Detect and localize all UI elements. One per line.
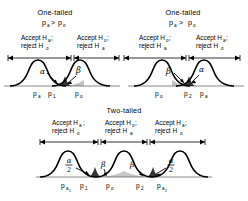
region-line1: Accept H	[77, 34, 103, 42]
region-range-bars	[124, 55, 240, 61]
region-line1-tail: ;	[51, 34, 53, 41]
axis-label-sub2: 2	[165, 189, 167, 193]
region-line1-tail: ;	[83, 119, 85, 126]
region-line2-sub: a	[102, 46, 105, 51]
region-label-accept-ho-reject-ha: Accept H o ; reject H a	[77, 34, 109, 51]
axis-label-base: p	[80, 182, 84, 190]
beta-symbol: β	[75, 65, 81, 75]
axis-tick-labels: p a 1 p 1 p o p 2 p a 2	[61, 182, 167, 193]
hypothesis-lhs-sub: a	[174, 23, 177, 28]
axis-label-base: p	[75, 90, 79, 98]
axis-label-base: p	[200, 90, 204, 98]
region-line2: reject H	[155, 127, 177, 135]
axis-label-base: p	[157, 182, 161, 190]
region-label-accept-ha-reject-ho-upper: Accept H a ; reject H o	[155, 119, 187, 136]
alpha-over-two-annotation-left: α 2	[66, 157, 90, 175]
axis-label-base: p	[61, 182, 65, 190]
region-line2: reject H	[21, 42, 43, 50]
axis-label-base: p	[33, 90, 37, 98]
axis-label-base: p	[106, 182, 110, 190]
axis-label-base: p	[48, 90, 52, 98]
curve-null-distribution	[134, 60, 190, 86]
beta-annotation: β	[165, 66, 185, 84]
region-line1: Accept H	[196, 34, 222, 42]
region-line1-sub: a	[79, 123, 82, 128]
axis-label-sub: o	[80, 94, 83, 99]
alpha-over-two-annotation-right: α 2	[155, 157, 175, 176]
axis-tick-labels: p a p 1 p o	[33, 90, 83, 99]
region-line2: reject H	[105, 127, 127, 135]
axis-label-sub: o	[111, 186, 114, 191]
region-line1-tail: ;	[107, 34, 109, 41]
figure-canvas: One-tailed p a > p o Accept H a ; reject…	[0, 0, 248, 201]
hypothesis-lhs: p	[169, 18, 173, 27]
region-line2-sub: o	[221, 46, 224, 51]
region-label-accept-ha-reject-ho: Accept H a ; reject H o	[196, 34, 228, 51]
axis-label-sub: a	[38, 94, 41, 99]
region-line1: Accept H	[155, 119, 181, 127]
region-line2-sub: o	[180, 131, 183, 136]
region-line1-tail: ;	[169, 34, 171, 41]
alpha-denominator: 2	[66, 166, 71, 174]
axis-label-sub: 2	[141, 186, 144, 191]
region-line2-sub: a	[164, 46, 167, 51]
panel-title: One-tailed	[165, 8, 200, 17]
panel-hypothesis: p a > p o	[42, 18, 66, 28]
alpha-numerator: α	[169, 157, 174, 165]
curve-alternative-distribution	[176, 60, 234, 86]
alpha-symbol: α	[40, 67, 45, 76]
axis-label-base: p	[136, 182, 140, 190]
axis-label-sub2: 1	[69, 189, 71, 193]
region-line1: Accept H	[139, 34, 165, 42]
hypothesis-rhs: p	[58, 18, 62, 27]
region-range-bars	[8, 55, 119, 61]
region-line1: Accept H	[52, 119, 78, 127]
axis-label-base: p	[184, 90, 188, 98]
curve-alternative-distribution-upper	[152, 151, 208, 177]
axis-label-sub: 1	[53, 94, 56, 99]
region-line2: reject H	[77, 42, 99, 50]
hypothesis-rhs-sub: o	[193, 23, 196, 28]
region-line1: Accept H	[21, 34, 47, 42]
panel-title: Two-tailed	[107, 106, 142, 115]
alpha-symbol: α	[199, 65, 204, 74]
axis-label-sub: 2	[189, 94, 192, 99]
beta-symbol: β	[100, 160, 106, 169]
region-line1-tail: ;	[135, 119, 137, 126]
axis-label-sub: 1	[85, 186, 88, 191]
panel-one-tailed-right: One-tailed p a > p o Accept H o ; reject…	[124, 8, 244, 99]
region-line2-sub: o	[46, 46, 49, 51]
alpha-denominator: 2	[168, 166, 173, 174]
curve-alternative-distribution	[10, 60, 66, 86]
beta-symbol: β	[165, 66, 171, 76]
axis-label-base: p	[155, 90, 159, 98]
region-label-accept-ho-reject-ha: Accept H o ; reject H a	[105, 119, 137, 136]
region-label-accept-ha-reject-ho: Accept H a ; reject H o	[21, 34, 53, 51]
region-label-accept-ha-reject-ho-lower: Accept H a ; reject H o	[52, 119, 85, 136]
hypothesis-test-diagram: One-tailed p a > p o Accept H a ; reject…	[0, 0, 248, 201]
beta-symbol: β	[129, 160, 135, 169]
panel-hypothesis: p a > p o	[169, 18, 196, 28]
region-line2-sub: a	[130, 131, 133, 136]
hypothesis-rhs: p	[188, 18, 192, 27]
region-line2: reject H	[196, 42, 218, 50]
axis-label-sub: o	[160, 94, 163, 99]
hypothesis-lhs: p	[42, 18, 46, 27]
hypothesis-operator: >	[179, 18, 183, 27]
region-label-accept-ho-reject-ha: Accept H o ; reject H a	[139, 34, 171, 51]
panel-two-tailed: Two-tailed Accept H a ; reject H o Accep…	[36, 106, 212, 193]
hypothesis-rhs-sub: o	[63, 23, 66, 28]
region-line1-tail: ;	[185, 119, 187, 126]
axis-tick-labels: p o p 2 p a	[155, 90, 208, 99]
beta-annotation-left: β	[100, 160, 107, 177]
region-line2-sub: o	[77, 131, 80, 136]
alpha-numerator: α	[67, 157, 72, 165]
axis-label-sub: a	[205, 94, 208, 99]
panel-title: One-tailed	[37, 8, 72, 17]
region-line1-tail: ;	[226, 34, 228, 41]
region-range-bars	[40, 139, 205, 145]
region-line2: reject H	[139, 42, 161, 50]
hypothesis-lhs-sub: a	[47, 23, 50, 28]
region-line2: reject H	[52, 127, 74, 135]
region-line1: Accept H	[105, 119, 131, 127]
